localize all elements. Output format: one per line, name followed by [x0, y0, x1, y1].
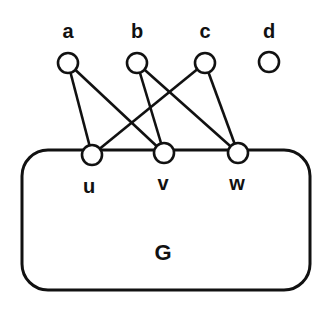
- node-a: [58, 53, 78, 73]
- node-label-v: v: [157, 172, 169, 194]
- edge-a-u: [68, 63, 92, 155]
- node-label-b: b: [131, 20, 143, 42]
- node-w: [228, 143, 248, 163]
- node-v: [154, 143, 174, 163]
- node-d: [259, 52, 279, 72]
- edges: [68, 63, 238, 155]
- node-c: [195, 53, 215, 73]
- graph-diagram: abcduvw G: [0, 0, 323, 310]
- node-label-d: d: [263, 20, 275, 42]
- node-b: [127, 53, 147, 73]
- node-label-w: w: [228, 172, 245, 194]
- node-label-u: u: [83, 175, 95, 197]
- node-u: [82, 145, 102, 165]
- node-label-c: c: [199, 20, 210, 42]
- graph-g-box: [22, 150, 310, 290]
- nodes: [58, 52, 279, 165]
- node-label-a: a: [62, 20, 74, 42]
- graph-label: G: [154, 240, 171, 265]
